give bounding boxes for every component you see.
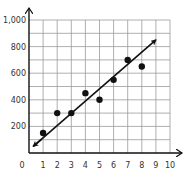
data-point [110,77,116,83]
x-tick-label: 4 [83,161,88,170]
data-point [82,90,88,96]
axes [29,8,182,153]
grid-lines [29,20,170,153]
data-point [96,97,102,103]
x-tick-label: 9 [153,161,158,170]
y-tick-label: 600 [11,69,26,78]
y-axis-tick-labels: 2004006008001,000 [3,16,26,131]
data-point [40,130,46,136]
data-point [54,110,60,116]
data-point [68,110,74,116]
scatter-plot: 012345678910 2004006008001,000 [0,0,187,175]
x-tick-label: 10 [165,161,175,170]
data-point [125,57,131,63]
y-tick-label: 800 [11,43,26,52]
x-tick-label: 7 [125,161,130,170]
best-fit-line-start-arrow [33,139,41,146]
x-tick-label: 3 [69,161,74,170]
x-tick-label: 1 [41,161,46,170]
x-tick-label: 6 [111,161,116,170]
y-tick-label: 400 [11,96,26,105]
x-tick-label: 0 [19,161,24,170]
data-points [40,57,145,137]
data-point [139,63,145,69]
y-tick-label: 200 [11,122,26,131]
trend-line [33,40,156,146]
x-tick-label: 2 [55,161,60,170]
best-fit-line [33,40,156,146]
x-tick-label: 8 [139,161,144,170]
x-tick-label: 5 [97,161,102,170]
y-tick-label: 1,000 [3,16,26,25]
x-axis-tick-labels: 012345678910 [19,161,175,170]
